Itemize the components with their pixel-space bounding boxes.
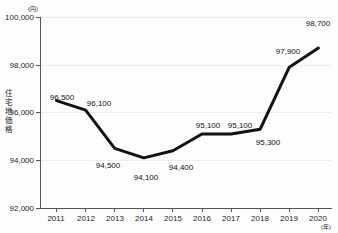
x-tick-labels: 2011 2012 2013 2014 2015 2016 2017 2018 … xyxy=(47,214,327,223)
y-axis-title-char-4: 格 xyxy=(5,124,13,134)
x-tick-label-2018: 2018 xyxy=(251,214,269,223)
data-label-2012: 96,100 xyxy=(87,99,112,108)
data-label-2020: 98,700 xyxy=(306,19,331,28)
y-tick-label-94000: 94,000 xyxy=(10,156,35,165)
data-label-2011: 96,500 xyxy=(50,93,75,102)
data-label-2014: 94,100 xyxy=(134,173,159,182)
x-tick-label-2020: 2020 xyxy=(309,214,327,223)
chart-canvas: 100,000 98,000 96,000 94,000 92,000 (円) … xyxy=(0,0,338,233)
y-tick-label-92000: 92,000 xyxy=(10,204,35,213)
y-axis-unit-label: (円) xyxy=(28,6,38,13)
data-point-labels: 96,500 96,100 94,500 94,100 94,400 95,10… xyxy=(50,19,331,182)
gridlines xyxy=(40,17,332,160)
x-tick-label-2019: 2019 xyxy=(280,214,298,223)
y-axis-title-char-2: 地 xyxy=(5,106,13,116)
x-tick-label-2011: 2011 xyxy=(47,214,65,223)
x-tick-label-2012: 2012 xyxy=(77,214,95,223)
x-tick-label-2017: 2017 xyxy=(222,214,240,223)
y-axis-title: 住 宅 地 価 格 xyxy=(5,88,13,134)
y-axis-title-char-1: 宅 xyxy=(5,97,13,107)
data-label-2016: 95,100 xyxy=(196,121,221,130)
data-label-2018: 95,300 xyxy=(256,138,281,147)
x-tick-label-2015: 2015 xyxy=(164,214,182,223)
y-tick-marks xyxy=(36,18,40,209)
y-axis-title-char-3: 価 xyxy=(5,115,13,125)
x-tick-label-2013: 2013 xyxy=(106,214,124,223)
x-tick-label-2016: 2016 xyxy=(193,214,211,223)
data-label-2017: 95,100 xyxy=(228,121,253,130)
data-label-2013: 94,500 xyxy=(96,161,121,170)
y-tick-label-100000: 100,000 xyxy=(5,13,34,22)
y-axis-title-char-0: 住 xyxy=(5,88,13,98)
x-axis-unit-label: (年) xyxy=(321,223,331,231)
line-chart-residential-land-price: 100,000 98,000 96,000 94,000 92,000 (円) … xyxy=(0,0,338,233)
x-tick-label-2014: 2014 xyxy=(135,214,153,223)
y-tick-label-98000: 98,000 xyxy=(10,61,35,70)
data-label-2015: 94,400 xyxy=(169,163,194,172)
y-tick-label-96000: 96,000 xyxy=(10,108,35,117)
axes xyxy=(40,17,332,209)
data-label-2019: 97,900 xyxy=(276,47,301,56)
